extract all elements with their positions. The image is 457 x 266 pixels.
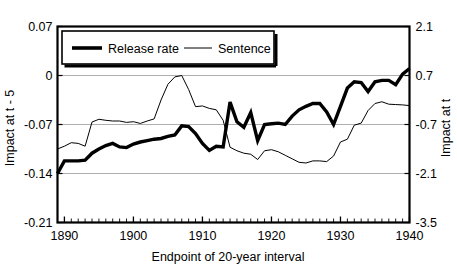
- x-tick-label: 1900: [120, 229, 148, 243]
- y-axis-title-left: Impact at t - 5: [3, 90, 17, 166]
- chart-legend: Release rateSentence: [62, 31, 276, 66]
- y-tick-label-right: -0.7: [416, 118, 438, 132]
- y-tick-label-left: 0.07: [28, 20, 52, 34]
- y-tick-label-left: -0.21: [24, 216, 53, 230]
- y-tick-label-left: 0: [46, 69, 53, 83]
- x-tick-label: 1940: [396, 229, 424, 243]
- x-tick-label: 1910: [189, 229, 217, 243]
- impact-line-chart: 1890190019101920193019400.070-0.07-0.14-…: [0, 0, 457, 266]
- y-axis-title-right: Impact at t: [439, 98, 453, 157]
- legend-label-release-rate: Release rate: [108, 42, 179, 56]
- x-tick-label: 1930: [327, 229, 355, 243]
- y-tick-label-right: -2.1: [416, 167, 438, 181]
- y-tick-label-right: 0.7: [416, 69, 433, 83]
- x-tick-label: 1920: [258, 229, 286, 243]
- y-tick-label-left: -0.14: [24, 167, 53, 181]
- legend-label-sentence: Sentence: [218, 42, 271, 56]
- chart-container: 1890190019101920193019400.070-0.07-0.14-…: [0, 0, 457, 266]
- y-tick-label-right: -3.5: [416, 216, 438, 230]
- x-tick-label: 1890: [50, 229, 78, 243]
- y-tick-label-left: -0.07: [24, 118, 53, 132]
- y-tick-label-right: 2.1: [416, 20, 433, 34]
- x-axis-title: Endpoint of 20-year interval: [152, 250, 305, 264]
